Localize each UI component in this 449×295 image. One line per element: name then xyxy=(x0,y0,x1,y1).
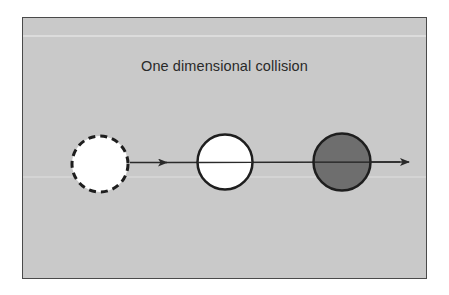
initial-position-ball xyxy=(72,136,128,192)
collision-diagram xyxy=(0,0,449,295)
